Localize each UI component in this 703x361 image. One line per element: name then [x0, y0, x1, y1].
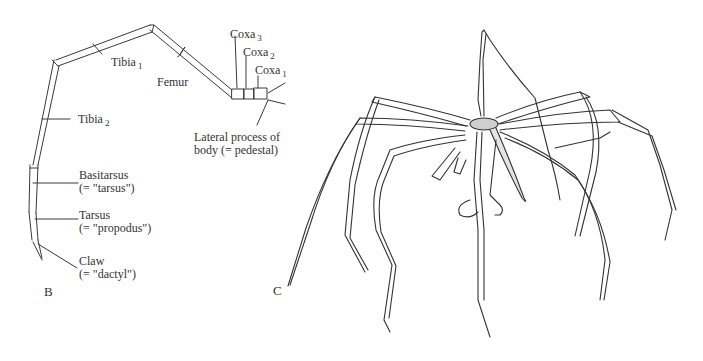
panel-letter-c: C — [273, 283, 282, 299]
label-line: (= "tarsus") — [79, 182, 135, 195]
panel-letter-b: B — [44, 284, 53, 300]
label-text: Tibia — [111, 55, 136, 69]
label-text: Coxa — [230, 27, 255, 41]
label-subscript: 1 — [138, 61, 143, 71]
label-subscript: 2 — [270, 51, 275, 61]
label-line: (= "dactyl") — [79, 268, 136, 281]
label-coxa-2: Coxa2 — [243, 46, 275, 63]
label-text: Tibia — [78, 112, 103, 126]
label-text: Coxa — [255, 63, 280, 77]
label-coxa-3: Coxa3 — [230, 28, 262, 45]
label-text: Coxa — [243, 45, 268, 59]
label-coxa-1: Coxa1 — [255, 64, 287, 81]
label-line: body (= pedestal) — [194, 144, 280, 157]
label-subscript: 1 — [282, 69, 287, 79]
sea-spider-drawing — [288, 30, 676, 337]
figure: Coxa3 Coxa2 Coxa1 Femur Tibia1 Tibia2 La… — [0, 0, 703, 361]
label-tibia-1: Tibia1 — [111, 56, 142, 73]
label-femur: Femur — [157, 76, 188, 89]
label-tibia-2: Tibia2 — [78, 113, 109, 130]
label-claw: Claw (= "dactyl") — [79, 255, 136, 281]
label-subscript: 3 — [257, 33, 262, 43]
label-line: (= "propodus") — [79, 222, 151, 235]
label-tarsus: Tarsus (= "propodus") — [79, 209, 151, 235]
label-basitarsus: Basitarsus (= "tarsus") — [79, 169, 135, 195]
label-subscript: 2 — [105, 118, 110, 128]
label-lateral-process: Lateral process of body (= pedestal) — [194, 131, 280, 157]
label-text: Femur — [157, 75, 188, 89]
